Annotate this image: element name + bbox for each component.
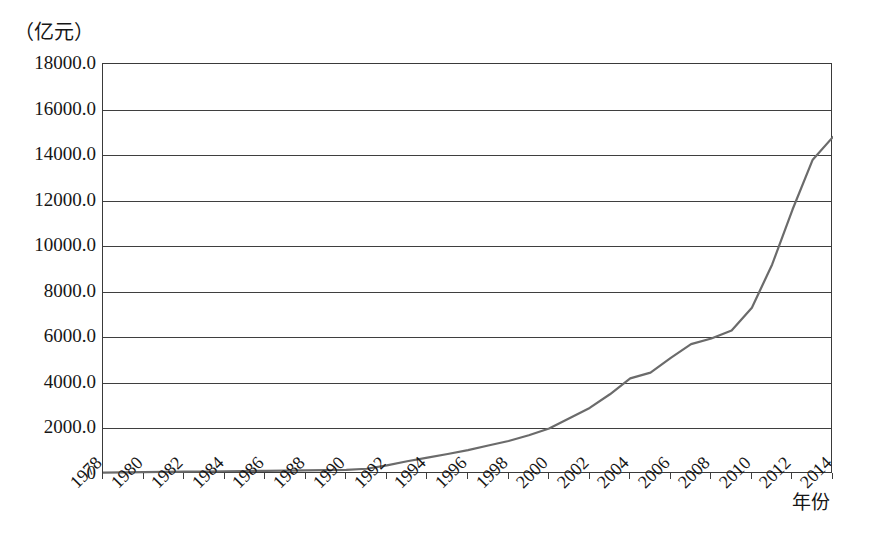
x-axis-title: 年份 xyxy=(792,487,830,514)
chart-canvas: （亿元） 18000.016000.014000.012000.010000.0… xyxy=(0,0,878,545)
y-axis-tick-label: 6000.0 xyxy=(4,325,96,347)
y-axis-tick-label: 18000.0 xyxy=(4,52,96,74)
plot-area xyxy=(102,63,832,473)
series-polyline xyxy=(103,137,833,473)
x-axis-tick-labels: 1978198019821984198619881990199219941996… xyxy=(0,478,878,538)
y-axis-tick-label: 10000.0 xyxy=(4,234,96,256)
y-axis-tick-label: 8000.0 xyxy=(4,280,96,302)
y-axis-tick-label: 4000.0 xyxy=(4,371,96,393)
y-axis-tick-label: 16000.0 xyxy=(4,98,96,120)
y-axis-tick-labels: 18000.016000.014000.012000.010000.08000.… xyxy=(0,63,96,473)
y-axis-tick-label: 2000.0 xyxy=(4,416,96,438)
y-axis-tick-label: 12000.0 xyxy=(4,189,96,211)
data-series-line xyxy=(103,64,833,474)
y-axis-tick-label: 14000.0 xyxy=(4,143,96,165)
y-axis-unit-label: （亿元） xyxy=(14,16,94,45)
plot-inner xyxy=(103,64,831,472)
